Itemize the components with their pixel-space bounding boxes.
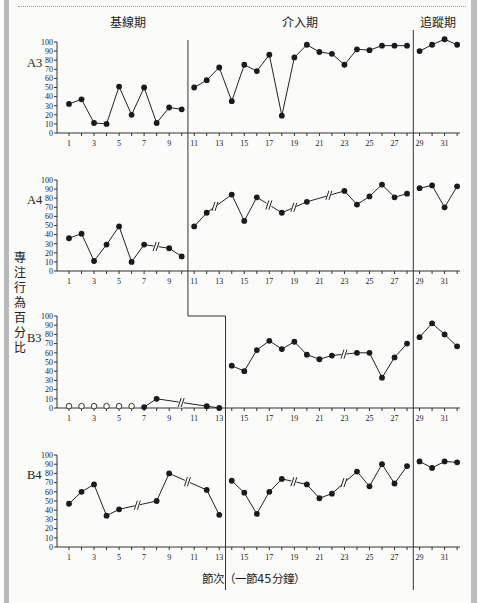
x-tick-label: 7 — [142, 139, 146, 148]
x-tick-label: 5 — [117, 277, 121, 286]
data-point — [342, 188, 348, 194]
x-tick-label: 31 — [441, 414, 449, 423]
x-tick-label: 11 — [190, 277, 198, 286]
data-point — [329, 353, 335, 359]
data-point — [454, 183, 460, 189]
y-tick-label: 60 — [45, 212, 53, 221]
data-point — [79, 96, 85, 102]
data-point — [329, 51, 335, 57]
data-point — [229, 363, 235, 369]
y-tick-label: 30 — [45, 240, 53, 249]
panel-label: A4 — [27, 193, 43, 207]
y-tick-label: 90 — [45, 47, 53, 56]
y-tick-label: 70 — [45, 203, 53, 212]
data-point — [204, 210, 210, 216]
data-point — [204, 487, 210, 493]
data-point — [79, 489, 85, 495]
y-tick-label: 90 — [45, 321, 53, 330]
open-data-point — [129, 403, 135, 409]
x-tick-label: 11 — [190, 414, 198, 423]
x-tick-label: 1 — [67, 277, 71, 286]
y-tick-label: 30 — [45, 376, 53, 385]
x-tick-label: 17 — [265, 277, 273, 286]
y-tick-label: 50 — [45, 83, 53, 92]
y-tick-label: 50 — [45, 221, 53, 230]
y-tick-label: 50 — [45, 497, 53, 506]
x-tick-label: 13 — [215, 277, 223, 286]
open-data-point — [91, 403, 97, 409]
x-tick-label: 17 — [265, 414, 273, 423]
x-tick-label: 13 — [215, 139, 223, 148]
y-tick-label: 90 — [45, 185, 53, 194]
x-tick-label: 25 — [365, 139, 373, 148]
x-tick-label: 11 — [190, 553, 198, 562]
data-point — [291, 339, 297, 345]
y-tick-label: 100 — [41, 38, 53, 47]
y-tick-label: 70 — [45, 65, 53, 74]
data-point — [166, 471, 172, 477]
x-tick-label: 9 — [167, 277, 171, 286]
x-tick-label: 31 — [441, 553, 449, 562]
y-axis-title-char: 比 — [14, 341, 26, 355]
y-tick-label: 0 — [49, 129, 53, 138]
x-tick-label: 5 — [117, 553, 121, 562]
data-point — [404, 463, 410, 469]
data-point — [129, 259, 135, 265]
x-tick-label: 19 — [290, 414, 298, 423]
x-tick-label: 13 — [215, 553, 223, 562]
x-tick-label: 19 — [290, 277, 298, 286]
panels: A301020304050607080901001357911131517192… — [27, 36, 460, 562]
y-axis-title-char: 百 — [14, 311, 26, 325]
multiple-baseline-chart: 基線期 介入期 追蹤期 專注行為百分比 節次（一節45分鐘） A30102030… — [0, 0, 479, 603]
data-point — [154, 498, 160, 504]
data-point — [116, 506, 122, 512]
data-point — [266, 338, 272, 344]
x-tick-label: 31 — [441, 277, 449, 286]
data-point — [379, 43, 385, 49]
data-point — [141, 85, 147, 91]
x-tick-label: 27 — [391, 139, 399, 148]
x-tick-label: 1 — [67, 414, 71, 423]
x-axis-title: 節次（一節45分鐘） — [202, 572, 305, 586]
y-axis-title-char: 注 — [14, 265, 26, 280]
y-tick-label: 90 — [45, 460, 53, 469]
data-point — [367, 350, 373, 356]
data-point — [229, 98, 235, 104]
data-point — [279, 113, 285, 119]
data-point — [442, 204, 448, 210]
data-point — [191, 85, 197, 91]
x-tick-label: 11 — [190, 139, 198, 148]
data-point — [91, 482, 97, 488]
x-tick-label: 9 — [167, 139, 171, 148]
y-tick-label: 40 — [45, 367, 53, 376]
x-tick-label: 23 — [340, 139, 348, 148]
data-point — [304, 42, 310, 48]
x-tick-label: 3 — [92, 414, 96, 423]
data-point — [141, 242, 147, 248]
data-point — [166, 245, 172, 251]
y-tick-label: 70 — [45, 478, 53, 487]
panel-label: A3 — [27, 56, 42, 70]
y-tick-label: 20 — [45, 111, 53, 120]
data-point — [392, 43, 398, 49]
y-tick-label: 30 — [45, 515, 53, 524]
data-point — [329, 491, 335, 497]
data-point — [266, 489, 272, 495]
data-point — [79, 231, 85, 237]
x-tick-label: 1 — [67, 553, 71, 562]
data-point — [367, 193, 373, 199]
y-tick-label: 60 — [45, 349, 53, 358]
y-axis-title: 專注行為百分比 — [14, 251, 26, 355]
x-tick-label: 25 — [365, 553, 373, 562]
y-tick-label: 10 — [45, 534, 53, 543]
x-tick-label: 15 — [240, 553, 248, 562]
data-point — [367, 47, 373, 53]
data-point — [104, 242, 110, 248]
data-point — [317, 49, 323, 55]
y-tick-label: 70 — [45, 339, 53, 348]
x-tick-label: 25 — [365, 414, 373, 423]
data-point — [229, 192, 235, 198]
y-axis-title-char: 為 — [14, 296, 26, 310]
y-tick-label: 40 — [45, 92, 53, 101]
data-point — [454, 343, 460, 349]
